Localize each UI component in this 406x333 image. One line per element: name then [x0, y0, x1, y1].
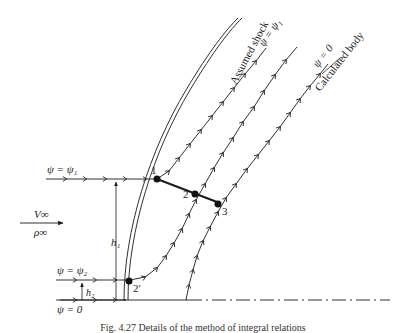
streamline-body — [186, 64, 328, 300]
point-1-label: 1 — [151, 164, 157, 176]
integration-line — [126, 176, 222, 285]
point-1 — [154, 176, 161, 183]
point-2 — [192, 191, 199, 198]
figure-caption: Fig. 4.27 Details of the method of integ… — [0, 322, 406, 333]
assumed-shock — [124, 18, 242, 300]
point-3-label: 3 — [222, 205, 228, 217]
v-inf-label: V∞ — [34, 208, 49, 220]
point-3 — [215, 201, 222, 208]
psi1-label: ψ = ψ₁ — [47, 163, 78, 175]
psi0-label: ψ = 0 — [57, 303, 83, 315]
h2-label: h₂ — [86, 287, 95, 298]
psi2-label: ψ = ψ₂ — [57, 264, 88, 276]
point-2-label: 2 — [183, 188, 189, 200]
point-2-prime — [126, 278, 133, 285]
h1-label: h₁ — [111, 236, 121, 248]
rho-inf-label: ρ∞ — [33, 226, 47, 238]
point-2-prime-label: 2′ — [133, 282, 141, 294]
